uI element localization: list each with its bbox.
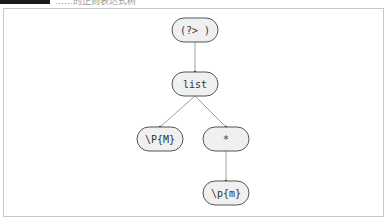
edges <box>159 42 228 182</box>
node-label: \p{m} <box>211 188 241 199</box>
tree-node: list <box>172 72 218 96</box>
node-label: (?> ) <box>180 25 210 36</box>
node-label: \P{M} <box>145 134 175 145</box>
node-label: list <box>183 79 207 90</box>
node-label: * <box>223 134 229 145</box>
tree-node: (?> ) <box>172 18 218 42</box>
edge-n1-n2 <box>160 96 195 127</box>
edge-n1-n3 <box>195 96 226 127</box>
tree-node: * <box>203 127 249 151</box>
tree-node: \P{M} <box>137 127 183 151</box>
tree-node: \p{m} <box>203 181 249 205</box>
nodes: (?> )list\P{M}*\p{m} <box>137 18 249 205</box>
regex-tree-diagram: (?> )list\P{M}*\p{m} <box>0 0 386 219</box>
